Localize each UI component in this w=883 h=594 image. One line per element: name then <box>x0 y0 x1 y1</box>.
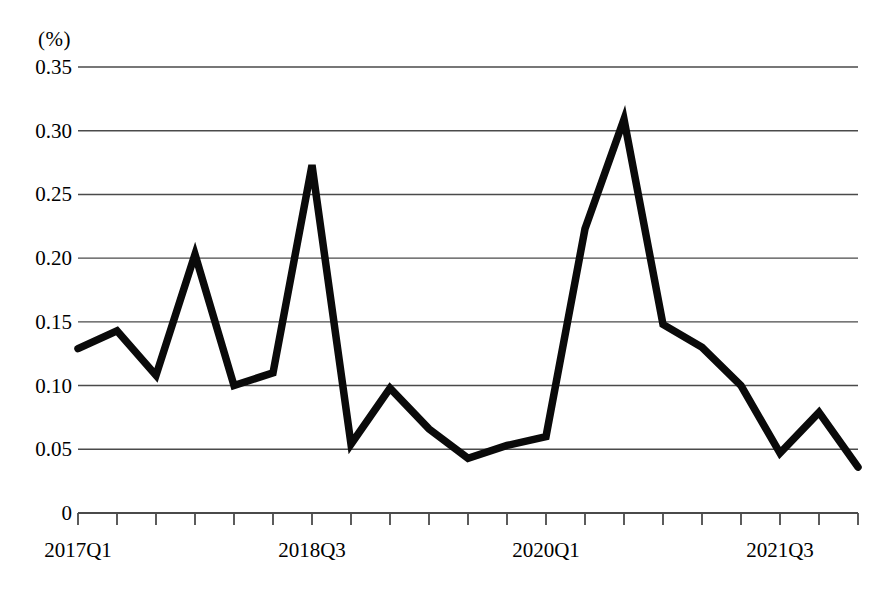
x-axis-tick-label: 2020Q1 <box>512 538 580 563</box>
x-axis-labels: 2017Q12018Q32020Q12021Q3 <box>0 0 883 594</box>
x-axis-tick-label: 2017Q1 <box>44 538 112 563</box>
line-chart: (%) 0.350.300.250.200.150.100.050 2017Q1… <box>0 0 883 594</box>
x-axis-tick-label: 2018Q3 <box>278 538 346 563</box>
x-axis-tick-label: 2021Q3 <box>746 538 814 563</box>
